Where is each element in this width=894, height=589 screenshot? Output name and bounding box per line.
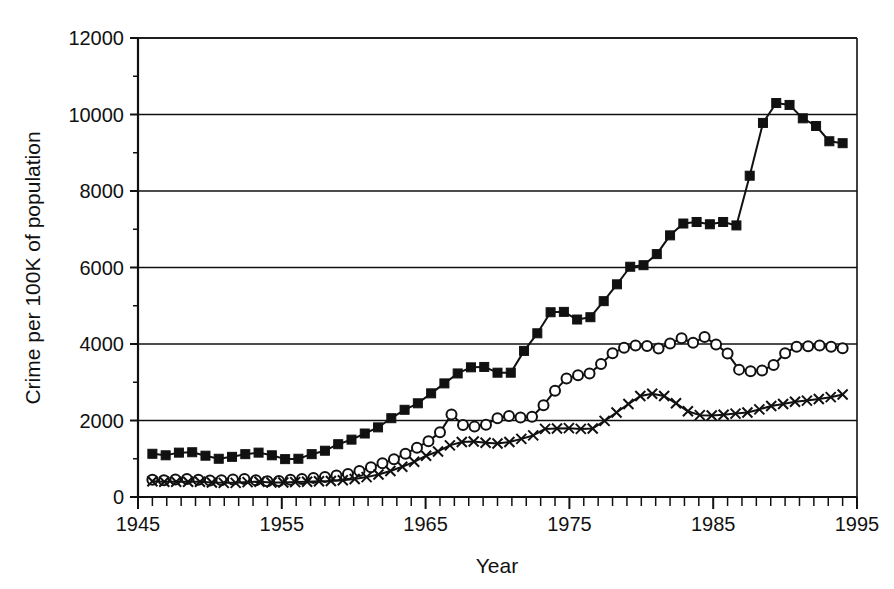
marker-filled-square xyxy=(374,423,383,432)
marker-open-circle xyxy=(723,349,733,359)
marker-open-circle xyxy=(516,412,526,422)
marker-open-circle xyxy=(481,420,491,430)
y-ticklabel: 12000 xyxy=(68,27,124,49)
marker-open-circle xyxy=(504,411,514,421)
series-line-violent-crime xyxy=(152,394,842,483)
marker-filled-square xyxy=(785,100,794,109)
marker-open-circle xyxy=(527,412,537,422)
marker-filled-square xyxy=(214,454,223,463)
marker-filled-square xyxy=(360,429,369,438)
marker-filled-square xyxy=(639,261,648,270)
x-axis-ticks xyxy=(138,497,857,509)
marker-open-circle xyxy=(677,333,687,343)
marker-open-circle xyxy=(550,386,560,396)
marker-cross xyxy=(433,446,443,456)
chart-container: 020004000600080001000012000 194519551965… xyxy=(0,0,894,589)
marker-filled-square xyxy=(679,219,688,228)
x-ticklabel: 1955 xyxy=(260,513,305,535)
marker-filled-square xyxy=(612,280,621,289)
marker-filled-square xyxy=(732,221,741,230)
marker-cross xyxy=(671,398,681,408)
marker-cross xyxy=(421,451,431,461)
series-violent-crime xyxy=(147,389,847,488)
marker-filled-square xyxy=(228,452,237,461)
marker-filled-square xyxy=(559,307,568,316)
marker-open-circle xyxy=(700,332,710,342)
series-total-crime xyxy=(148,99,847,464)
marker-filled-square xyxy=(719,217,728,226)
marker-filled-square xyxy=(812,121,821,130)
marker-open-circle xyxy=(435,427,445,437)
marker-open-circle xyxy=(412,443,422,453)
marker-cross xyxy=(623,399,633,409)
marker-filled-square xyxy=(161,451,170,460)
marker-filled-square xyxy=(798,114,807,123)
marker-open-circle xyxy=(769,360,779,370)
marker-open-circle xyxy=(619,343,629,353)
line-chart: 020004000600080001000012000 194519551965… xyxy=(0,0,894,589)
marker-filled-square xyxy=(188,448,197,457)
marker-filled-square xyxy=(174,448,183,457)
x-ticklabel: 1985 xyxy=(691,513,736,535)
marker-open-circle xyxy=(147,475,157,485)
marker-open-circle xyxy=(826,342,836,352)
marker-open-circle xyxy=(469,422,479,432)
data-series-group xyxy=(147,99,847,488)
marker-open-circle xyxy=(688,338,698,348)
marker-filled-square xyxy=(506,368,515,377)
marker-open-circle xyxy=(251,475,261,485)
marker-filled-square xyxy=(241,450,250,459)
series-line-total-crime xyxy=(152,103,842,459)
marker-filled-square xyxy=(387,414,396,423)
marker-open-circle xyxy=(596,359,606,369)
marker-filled-square xyxy=(772,99,781,108)
x-ticklabel: 1965 xyxy=(403,513,448,535)
marker-filled-square xyxy=(626,262,635,271)
y-axis-title: Crime per 100K of population xyxy=(21,131,44,404)
x-ticklabel: 1945 xyxy=(116,513,161,535)
marker-cross xyxy=(409,457,419,467)
y-ticklabel: 6000 xyxy=(80,257,125,279)
marker-filled-square xyxy=(201,451,210,460)
marker-open-circle xyxy=(780,348,790,358)
marker-filled-square xyxy=(599,297,608,306)
marker-filled-square xyxy=(838,139,847,148)
marker-filled-square xyxy=(745,171,754,180)
marker-open-circle xyxy=(562,373,572,383)
marker-filled-square xyxy=(427,389,436,398)
y-ticklabel: 2000 xyxy=(80,410,125,432)
marker-filled-square xyxy=(334,440,343,449)
marker-open-circle xyxy=(838,343,848,353)
marker-filled-square xyxy=(493,368,502,377)
marker-open-circle xyxy=(458,420,468,430)
marker-filled-square xyxy=(758,118,767,127)
marker-open-circle xyxy=(734,365,744,375)
marker-filled-square xyxy=(347,435,356,444)
marker-filled-square xyxy=(267,451,276,460)
marker-open-circle xyxy=(573,370,583,380)
marker-open-circle xyxy=(654,344,664,354)
marker-open-circle xyxy=(423,436,433,446)
x-ticklabel: 1975 xyxy=(547,513,592,535)
marker-filled-square xyxy=(692,217,701,226)
y-axis-ticks xyxy=(130,38,138,497)
marker-filled-square xyxy=(546,308,555,317)
marker-cross xyxy=(683,406,693,416)
y-ticklabel: 10000 xyxy=(68,104,124,126)
series-property-crime xyxy=(147,332,847,486)
marker-filled-square xyxy=(148,449,157,458)
marker-filled-square xyxy=(705,220,714,229)
marker-filled-square xyxy=(652,250,661,259)
marker-open-circle xyxy=(642,341,652,351)
marker-open-circle xyxy=(585,368,595,378)
marker-filled-square xyxy=(480,362,489,371)
y-ticklabel: 8000 xyxy=(80,180,125,202)
marker-open-circle xyxy=(746,366,756,376)
marker-filled-square xyxy=(573,315,582,324)
marker-filled-square xyxy=(413,399,422,408)
marker-filled-square xyxy=(307,450,316,459)
marker-filled-square xyxy=(520,346,529,355)
marker-filled-square xyxy=(440,379,449,388)
marker-open-circle xyxy=(803,341,813,351)
marker-open-circle xyxy=(493,413,503,423)
